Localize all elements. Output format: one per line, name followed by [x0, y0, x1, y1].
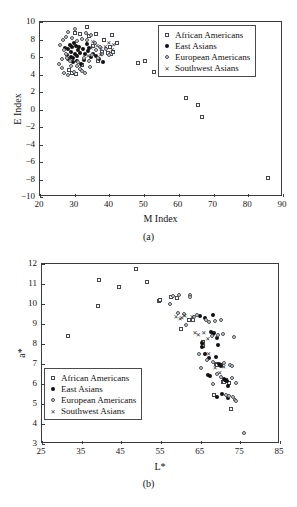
x-tick — [240, 441, 241, 444]
legend-marker-icon — [48, 373, 58, 383]
data-point — [85, 38, 89, 42]
data-point — [196, 103, 200, 107]
data-point — [211, 313, 215, 317]
legend-label: East Asians — [175, 41, 217, 51]
data-point — [168, 302, 172, 306]
scatter-figure: E Index M Index (a) African AmericansEas… — [0, 0, 297, 507]
legend-marker-icon — [48, 384, 58, 394]
marker-glyph — [165, 33, 169, 37]
x-tick-label: 55 — [156, 446, 165, 456]
panel-caption-b: (b) — [0, 478, 297, 489]
data-point — [85, 25, 89, 29]
data-point — [76, 60, 80, 64]
data-point — [213, 319, 217, 323]
legend-label: Southwest Asians — [175, 63, 239, 73]
data-point — [87, 59, 91, 63]
legend-item: Southwest Asians — [48, 405, 136, 416]
data-point — [215, 395, 219, 399]
data-point — [207, 320, 211, 324]
legend-item: African Americans — [48, 372, 136, 383]
data-point — [66, 30, 70, 34]
data-point — [66, 73, 70, 77]
x-tick-label: 60 — [173, 199, 182, 209]
y-tick-label: 0 — [13, 104, 35, 114]
data-point — [219, 375, 223, 379]
legend-item: East Asians — [48, 383, 136, 394]
y-tick — [42, 364, 45, 365]
y-tick — [40, 145, 43, 146]
y-tick — [40, 92, 43, 93]
data-point — [110, 33, 114, 37]
data-point — [221, 332, 225, 336]
data-point — [65, 56, 69, 60]
y-tick — [40, 180, 43, 181]
y-tick — [42, 424, 45, 425]
x-tick — [283, 194, 284, 197]
legend-marker-icon — [162, 52, 172, 62]
panel-caption-a: (a) — [0, 231, 297, 242]
data-point — [178, 316, 183, 321]
data-point — [200, 115, 204, 119]
data-point — [78, 51, 82, 55]
y-tick — [40, 197, 43, 198]
legend-label: European Americans — [61, 395, 136, 405]
data-point — [145, 280, 149, 284]
x-tick-label: 80 — [243, 199, 252, 209]
y-tick — [40, 75, 43, 76]
data-point — [217, 370, 222, 375]
x-tick-label: 90 — [278, 199, 287, 209]
data-point — [84, 31, 88, 35]
x-tick — [201, 441, 202, 444]
y-tick — [42, 444, 45, 445]
data-point — [83, 71, 87, 75]
legend-label: Southwest Asians — [61, 406, 125, 416]
y-tick — [40, 162, 43, 163]
y-tick-label: −2 — [13, 121, 35, 131]
x-tick — [280, 441, 281, 444]
data-point — [229, 407, 233, 411]
data-point — [69, 64, 73, 68]
legend-marker-icon — [48, 395, 58, 405]
data-point — [110, 47, 115, 52]
y-tick-label: −10 — [13, 191, 35, 201]
data-point — [177, 293, 181, 297]
y-tick-label: 9 — [15, 318, 37, 328]
legend-label: East Asians — [61, 384, 103, 394]
y-tick-label: 11 — [15, 278, 37, 288]
legend-marker-icon — [48, 406, 58, 416]
x-tick — [121, 441, 122, 444]
data-point — [179, 327, 183, 331]
data-point — [60, 57, 64, 61]
data-point — [73, 27, 77, 31]
data-point — [226, 384, 230, 388]
x-tick — [161, 441, 162, 444]
x-tick-label: 40 — [104, 199, 113, 209]
data-point — [72, 70, 76, 74]
y-tick-label: 10 — [13, 16, 35, 26]
marker-glyph — [51, 387, 55, 391]
x-tick-label: 30 — [69, 199, 78, 209]
data-point — [117, 285, 121, 289]
y-tick — [40, 40, 43, 41]
data-point — [97, 278, 101, 282]
data-point — [234, 399, 238, 403]
y-tick-label: 4 — [15, 418, 37, 428]
marker-glyph — [51, 376, 55, 380]
marker-glyph — [165, 55, 169, 59]
marker-glyph — [51, 398, 55, 402]
data-point — [96, 304, 100, 308]
y-tick — [40, 110, 43, 111]
data-point — [136, 61, 140, 65]
y-tick-label: 3 — [15, 438, 37, 448]
x-tick-label: 45 — [116, 446, 125, 456]
data-point — [182, 313, 187, 318]
data-point — [60, 66, 64, 70]
data-point — [184, 96, 188, 100]
y-tick-label: 6 — [13, 51, 35, 61]
y-tick-label: 7 — [15, 358, 37, 368]
y-tick-label: 10 — [15, 298, 37, 308]
y-tick — [40, 127, 43, 128]
data-point — [199, 366, 203, 370]
data-point — [242, 431, 246, 435]
data-point — [188, 295, 192, 299]
